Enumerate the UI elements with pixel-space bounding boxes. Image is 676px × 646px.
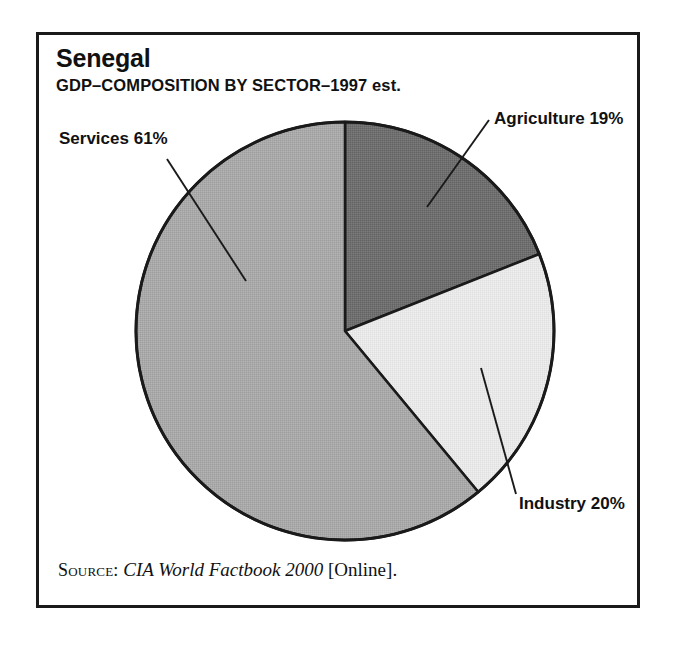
slice-label-services: Services 61% [59, 129, 168, 149]
source-kicker: Source: [58, 560, 118, 580]
pie-slice-group [136, 122, 554, 540]
slice-label-agriculture: Agriculture 19% [494, 109, 623, 129]
pie-graphic [0, 0, 676, 646]
pie-chart-figure: Senegal GDP–COMPOSITION BY SECTOR–1997 e… [0, 0, 676, 646]
source-work-title: CIA World Factbook 2000 [123, 559, 323, 580]
slice-label-industry: Industry 20% [519, 494, 625, 514]
source-medium: [Online]. [328, 559, 397, 580]
source-note: Source: CIA World Factbook 2000 [Online]… [58, 558, 397, 582]
